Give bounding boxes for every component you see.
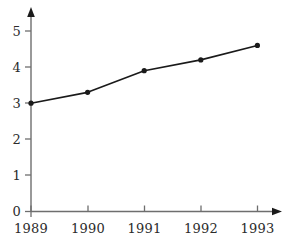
chart-plot-area: [0, 0, 287, 244]
y-axis-label-3: 3: [6, 97, 21, 110]
y-axis-label-2: 2: [6, 133, 21, 146]
x-axis-arrow-icon: [272, 208, 282, 216]
data-point-1989: [28, 101, 33, 106]
y-axis-ticks: [25, 31, 31, 212]
y-axis-label-5: 5: [6, 25, 21, 38]
y-axis-label-1: 1: [6, 169, 21, 182]
x-axis-label-1990: 1990: [71, 222, 105, 235]
data-point-1990: [85, 90, 90, 95]
x-axis: [31, 208, 282, 216]
y-axis: [27, 7, 35, 212]
x-axis-label-1992: 1992: [184, 222, 218, 235]
data-point-1993: [255, 43, 260, 48]
y-axis-arrow-icon: [27, 7, 35, 17]
y-axis-label-4: 4: [6, 61, 21, 74]
series-line: [31, 45, 257, 103]
x-axis-label-1993: 1993: [241, 222, 275, 235]
y-axis-label-0: 0: [6, 205, 21, 218]
x-axis-label-1989: 1989: [14, 222, 48, 235]
line-chart: 5 4 3 2 1 0 1989 1990 1991 1992 1993: [0, 0, 287, 244]
data-point-1992: [198, 57, 203, 62]
data-point-1991: [142, 68, 147, 73]
x-axis-label-1991: 1991: [128, 222, 162, 235]
